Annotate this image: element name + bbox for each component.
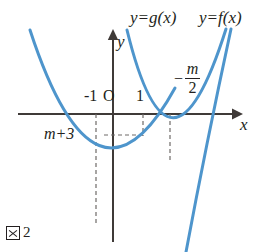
curve-g-lower-left-branch	[18, 5, 30, 30]
fraction-minus-sign: −	[174, 71, 183, 87]
x-tick-label-minus-m-over-2: − m 2	[174, 61, 200, 96]
zu-kanji-icon	[6, 226, 20, 240]
dashed-guides	[96, 114, 170, 224]
x-axis	[18, 109, 243, 120]
fraction-denominator: 2	[189, 79, 197, 96]
x-axis-label: x	[240, 116, 248, 133]
x-tick-label-minus-one: -1	[84, 88, 97, 104]
x-tick-label-one: 1	[136, 88, 144, 104]
figure-number: 2	[23, 224, 31, 241]
curve-label-f: y=f(x)	[199, 9, 242, 26]
fraction-numerator: m	[186, 61, 200, 78]
y-value-label-m-plus-3: m+3	[44, 126, 74, 142]
origin-label: O	[103, 88, 115, 104]
curve-label-g: y=g(x)	[130, 9, 176, 26]
fraction-stack: m 2	[185, 61, 200, 96]
figure-container: y=g(x) y=f(x) y x -1 O 1 m+3 − m 2 2	[0, 0, 273, 252]
figure-caption: 2	[6, 224, 31, 241]
graph-canvas	[0, 0, 273, 252]
y-axis-label: y	[117, 33, 125, 50]
